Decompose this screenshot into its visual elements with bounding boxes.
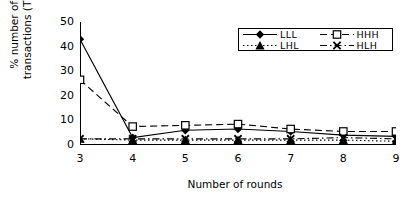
data-point-marker: [234, 120, 241, 127]
legend-item-hhh[interactable]: HHH: [316, 29, 393, 40]
data-point-marker: [287, 125, 294, 132]
y-tick-label: 10: [52, 113, 74, 126]
legend-item-lll[interactable]: LLL: [239, 29, 316, 40]
legend-label: LHL: [280, 40, 299, 51]
legend-item-hlh[interactable]: HLH: [316, 40, 393, 51]
line-chart: % number of transactions (TP) Number of …: [0, 0, 412, 201]
legend-label: HLH: [357, 40, 378, 51]
data-point-marker: [392, 128, 396, 135]
legend-item-lhl[interactable]: LHL: [239, 40, 316, 51]
legend-sample-lll: [242, 29, 278, 40]
x-tick-label: 4: [121, 152, 145, 165]
x-tick-label: 9: [384, 152, 408, 165]
data-point-marker: [182, 122, 189, 129]
legend-label: LLL: [280, 29, 297, 40]
x-tick-label: 5: [173, 152, 197, 165]
data-point-marker: [256, 30, 264, 38]
data-point-marker: [80, 76, 84, 83]
legend-label: HHH: [357, 29, 380, 40]
legend-sample-hhh: [319, 29, 355, 40]
series-hhh: [80, 76, 396, 135]
y-tick-label: 40: [52, 40, 74, 53]
data-point-marker: [333, 31, 340, 38]
x-tick-label: 3: [68, 152, 92, 165]
y-tick-label: 20: [52, 89, 74, 102]
y-tick-label: 50: [52, 15, 74, 28]
x-tick-label: 7: [279, 152, 303, 165]
legend-sample-lhl: [242, 40, 278, 51]
x-tick-label: 6: [226, 152, 250, 165]
x-tick-label: 8: [331, 152, 355, 165]
y-axis-label: % number of transactions (TP): [8, 0, 34, 100]
x-axis-label: Number of rounds: [70, 178, 400, 190]
y-tick-label: 0: [52, 138, 74, 151]
y-tick-label: 30: [52, 64, 74, 77]
legend: LLLHHHLHLHLH: [238, 28, 393, 51]
data-point-marker: [129, 123, 136, 130]
legend-sample-hlh: [319, 40, 355, 51]
